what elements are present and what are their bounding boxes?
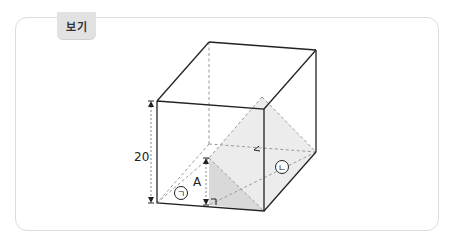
a-dimension-arrow <box>203 158 209 205</box>
label-circle-right: ㄴ <box>276 161 289 174</box>
label-circle-left: ㄱ <box>175 187 188 200</box>
a-label: A <box>193 175 202 189</box>
face-label-right: ㄴ <box>278 163 286 173</box>
prism-diagram: 20 A ㄱ ㄴ <box>0 0 452 248</box>
face-label-left: ㄱ <box>177 189 185 199</box>
height-label: 20 <box>134 150 149 164</box>
